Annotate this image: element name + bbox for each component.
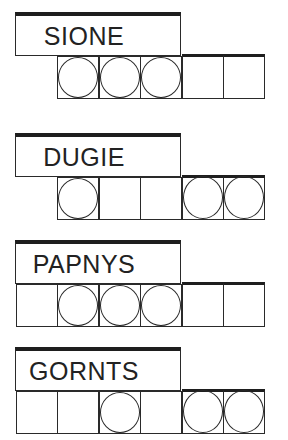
letter-cell[interactable] [182, 54, 224, 99]
circle-icon [100, 392, 140, 433]
letter-cell[interactable] [182, 282, 224, 327]
letter-cell[interactable] [57, 391, 99, 434]
circle-icon [224, 390, 264, 433]
circled-letter-cell[interactable] [140, 284, 182, 327]
circle-icon [141, 285, 181, 326]
circled-letter-cell[interactable] [182, 175, 224, 220]
circled-letter-cell[interactable] [99, 56, 141, 99]
circle-icon [58, 57, 98, 98]
circle-icon [183, 176, 223, 219]
circle-icon [224, 176, 264, 219]
circled-letter-cell[interactable] [223, 175, 265, 220]
scrambled-word-box: PAPNYS [15, 240, 181, 284]
letter-cell[interactable] [223, 54, 265, 99]
letter-cell[interactable] [16, 391, 58, 434]
circled-letter-cell[interactable] [223, 389, 265, 434]
letter-cell[interactable] [16, 284, 58, 327]
letter-cell[interactable] [140, 177, 182, 220]
scrambled-word: PAPNYS [33, 250, 164, 279]
scrambled-word-box: DUGIE [15, 133, 181, 177]
circled-letter-cell[interactable] [57, 56, 99, 99]
circle-icon [58, 178, 98, 219]
letter-cell[interactable] [223, 282, 265, 327]
circle-icon [183, 390, 223, 433]
circle-icon [141, 57, 181, 98]
scrambled-word-box: GORNTS [15, 347, 181, 391]
scrambled-word: GORNTS [29, 357, 167, 386]
circle-icon [58, 285, 98, 326]
circle-icon [100, 57, 140, 98]
circled-letter-cell[interactable] [99, 284, 141, 327]
scrambled-word: DUGIE [43, 143, 153, 172]
circled-letter-cell[interactable] [57, 177, 99, 220]
circled-letter-cell[interactable] [99, 391, 141, 434]
circled-letter-cell[interactable] [57, 284, 99, 327]
circle-icon [100, 285, 140, 326]
letter-cell[interactable] [99, 177, 141, 220]
scrambled-word-box: SIONE [15, 12, 181, 56]
circled-letter-cell[interactable] [140, 56, 182, 99]
scrambled-word: SIONE [44, 22, 152, 51]
circled-letter-cell[interactable] [182, 389, 224, 434]
letter-cell[interactable] [140, 391, 182, 434]
